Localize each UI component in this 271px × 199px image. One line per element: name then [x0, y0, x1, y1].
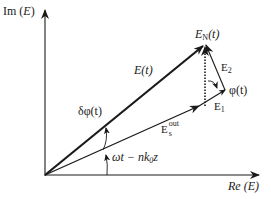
im-axis-label-prefix: Im: [3, 4, 16, 18]
phase-fluctuation-arc: [103, 128, 107, 150]
e1-label-sub: 1: [221, 105, 225, 114]
e2-label-sub: 2: [228, 66, 232, 75]
noise-field-label: EN(t): [195, 28, 219, 42]
phase-fluctuation-label: δφ(t): [78, 105, 102, 117]
noise-phase-arc: [208, 81, 217, 88]
carrier-phase-arc: [106, 155, 107, 175]
e1-label-name: E: [214, 100, 221, 112]
total-field-label: E(t): [134, 64, 153, 76]
carrier-phase-label-part2: nk: [138, 150, 149, 164]
noise-phase-label: φ(t): [229, 84, 247, 96]
re-axis-label-prefix: Re: [228, 179, 241, 193]
carrier-phase-label: ωt − nk0z: [112, 151, 158, 165]
re-axis-label-var: E: [248, 179, 255, 193]
re-axis-label: Re (E): [228, 180, 259, 192]
signal-out-label-name: E: [161, 123, 168, 135]
signal-out-label-sup: out: [169, 120, 179, 128]
carrier-phase-label-part1: ωt −: [112, 150, 138, 164]
carrier-phase-label-part3: z: [153, 150, 158, 164]
im-axis-label-var: E: [23, 4, 30, 18]
e2-label-name: E: [221, 61, 228, 73]
e2-label: E2: [221, 62, 232, 75]
signal-out-label-sub: s: [169, 130, 172, 138]
im-axis-label: Im (E): [3, 5, 35, 17]
signal-out-label: Eouts: [161, 122, 180, 136]
e1-label: E1: [214, 101, 225, 114]
noise-field-label-arg: (t): [208, 27, 219, 41]
phasor-diagram: Im (E) Re (E) EN(t) E(t) E2 φ(t) E1 Eout…: [0, 0, 271, 199]
noise-phase-label-text: φ(t): [229, 83, 247, 97]
phasor-diagram-graphics: [0, 0, 271, 199]
phase-fluctuation-label-text: δφ(t): [78, 104, 102, 118]
total-field-label-arg: (t): [141, 63, 152, 77]
